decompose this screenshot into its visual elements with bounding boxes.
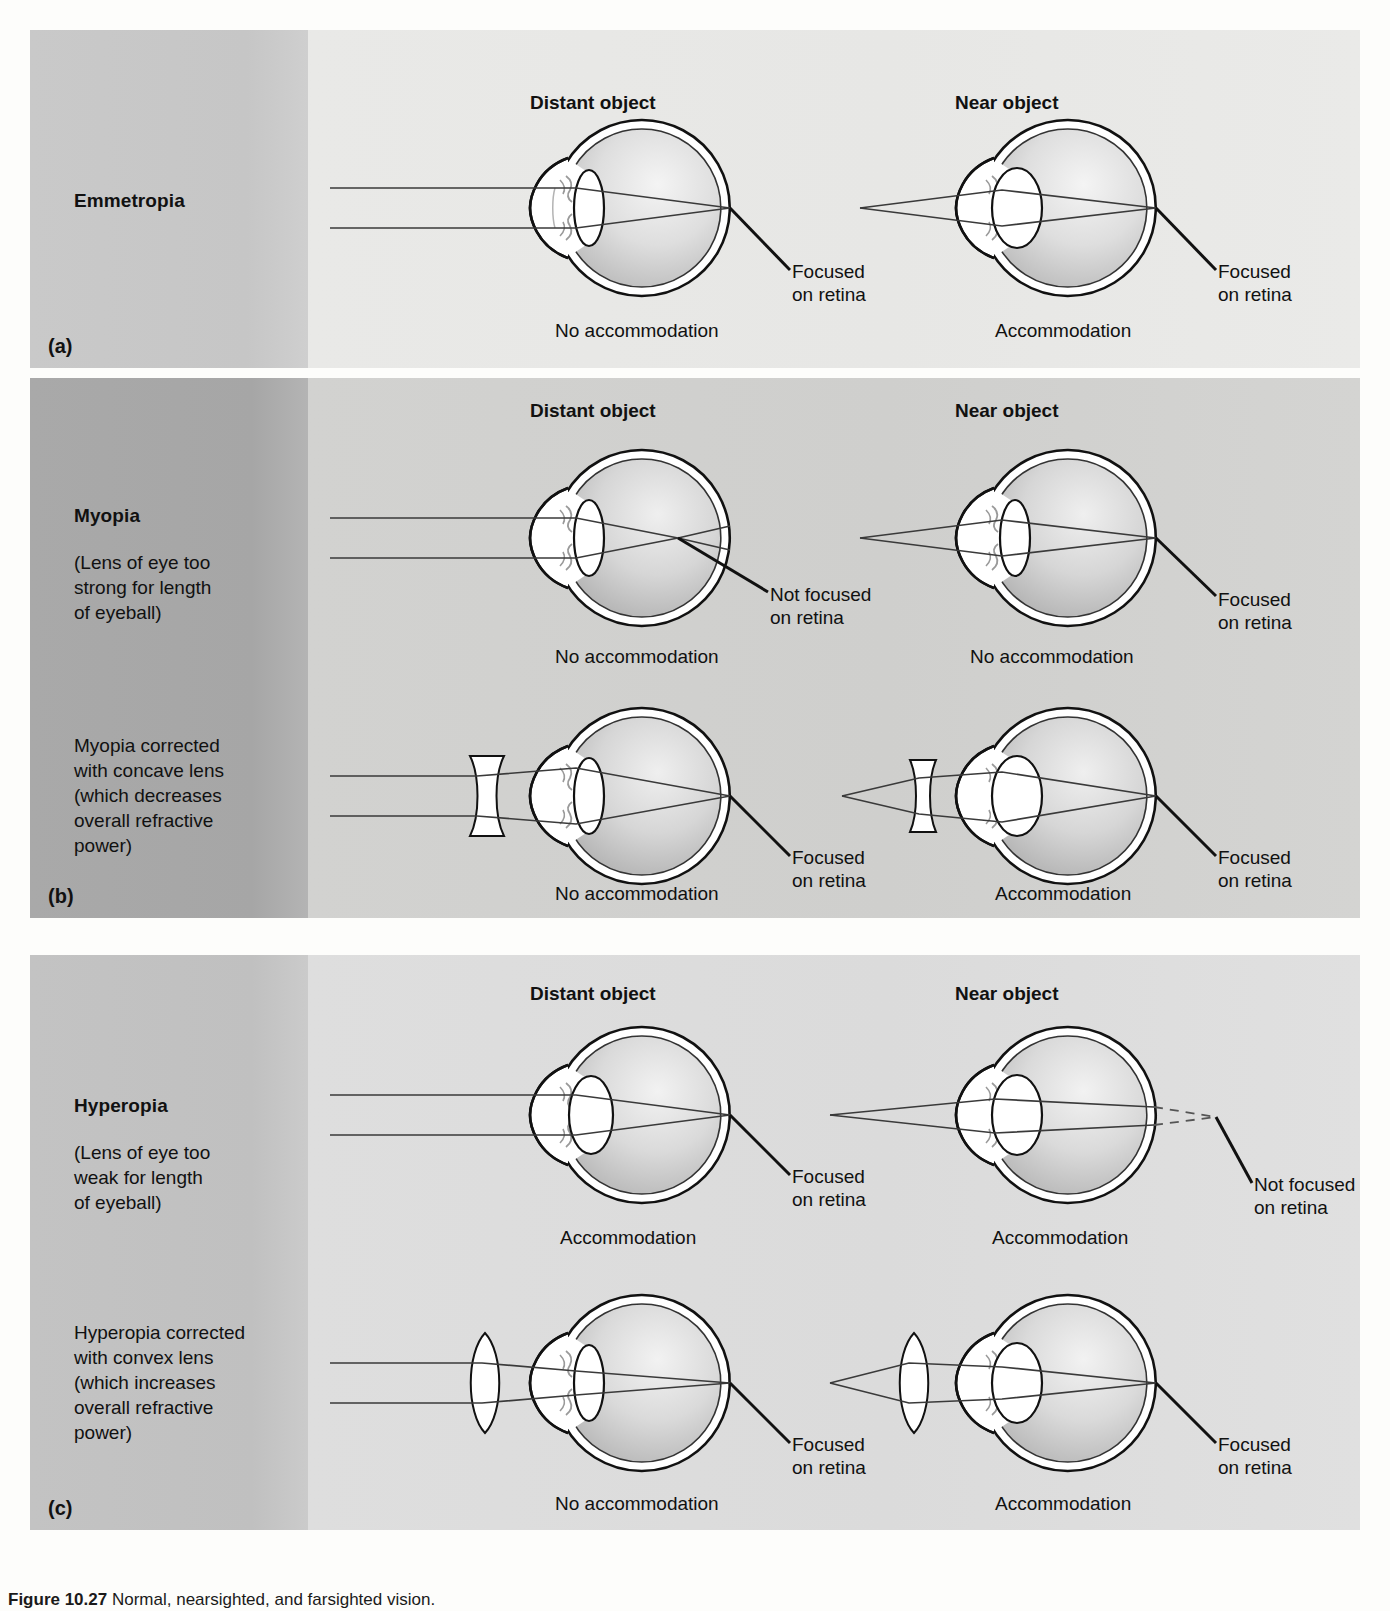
- focus-pointer: [1216, 1117, 1252, 1183]
- eye-distant-hyperopia-corrected: [330, 1295, 790, 1471]
- eye-near-myopia: [860, 450, 1216, 626]
- eye-near-hyperopia-corrected: [830, 1295, 1216, 1471]
- focus-label-near-row2: Focused on retina: [1218, 846, 1292, 892]
- focus-pointer: [1156, 208, 1216, 270]
- panel-emmetropia: Emmetropia (a) Distant object Near objec…: [30, 30, 1360, 368]
- eye-distant-myopia: [330, 450, 768, 626]
- accommodation-state-near-row1: No accommodation: [970, 646, 1134, 668]
- concave-lens-distant: [470, 756, 504, 836]
- eye-distant-emmetropia: [330, 120, 790, 296]
- accommodation-state-distant: No accommodation: [555, 320, 719, 342]
- virtual-focus-rays: [1154, 1107, 1216, 1125]
- eye-near-emmetropia: [860, 120, 1216, 296]
- accommodation-state-near-row2: Accommodation: [995, 1493, 1131, 1515]
- convex-lens-near: [900, 1333, 929, 1433]
- focus-label-distant-row1: Not focused on retina: [770, 583, 871, 629]
- accommodation-state-near-row2: Accommodation: [995, 883, 1131, 905]
- focus-label-distant-row2: Focused on retina: [792, 1433, 866, 1479]
- panel-myopia: Myopia (Lens of eye too strong for lengt…: [30, 378, 1360, 918]
- accommodation-state-near-row1: Accommodation: [992, 1227, 1128, 1249]
- figure-caption-label: Figure 10.27: [8, 1590, 107, 1609]
- focus-label-near-row1: Not focused on retina: [1254, 1173, 1355, 1219]
- focus-label-distant: Focused on retina: [792, 260, 866, 306]
- concave-lens-near: [910, 760, 936, 832]
- accommodation-state-distant-row1: No accommodation: [555, 646, 719, 668]
- eye-distant-myopia-corrected: [330, 708, 790, 884]
- eye-near-myopia-corrected: [842, 708, 1216, 884]
- focus-pointer: [730, 796, 790, 856]
- figure-caption-text: Normal, nearsighted, and farsighted visi…: [112, 1590, 435, 1609]
- focus-pointer: [730, 1115, 790, 1175]
- focus-label-near-row1: Focused on retina: [1218, 588, 1292, 634]
- focus-label-near-row2: Focused on retina: [1218, 1433, 1292, 1479]
- focus-label-distant-row1: Focused on retina: [792, 1165, 866, 1211]
- accommodation-state-distant-row2: No accommodation: [555, 883, 719, 905]
- focus-pointer: [1156, 796, 1216, 856]
- accommodation-state-distant-row2: No accommodation: [555, 1493, 719, 1515]
- convex-lens-distant: [471, 1333, 500, 1433]
- focus-pointer: [1156, 1383, 1216, 1443]
- focus-pointer: [1156, 538, 1216, 596]
- focus-pointer: [730, 1383, 790, 1443]
- panel-a-diagram: [30, 30, 1360, 368]
- panel-hyperopia: Hyperopia (Lens of eye too weak for leng…: [30, 955, 1360, 1530]
- focus-label-distant-row2: Focused on retina: [792, 846, 866, 892]
- eye-near-hyperopia: [830, 1027, 1252, 1203]
- figure-caption: Figure 10.27 Normal, nearsighted, and fa…: [8, 1590, 1378, 1610]
- focus-pointer: [730, 208, 790, 270]
- eye-distant-hyperopia: [330, 1027, 790, 1203]
- accommodation-state-distant-row1: Accommodation: [560, 1227, 696, 1249]
- accommodation-state-near: Accommodation: [995, 320, 1131, 342]
- focus-label-near: Focused on retina: [1218, 260, 1292, 306]
